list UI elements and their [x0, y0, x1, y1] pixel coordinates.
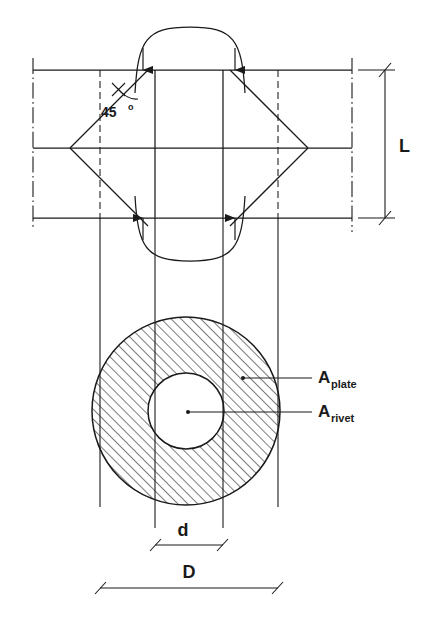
lower-plan-view — [88, 313, 284, 509]
dimension-L — [358, 63, 395, 225]
leader-dot-a-plate — [241, 376, 245, 380]
annulus-hatch-fill — [88, 313, 284, 509]
engineering-diagram-canvas: 45 o L A plate A rivet d D — [0, 0, 421, 628]
dimension-L-label: L — [399, 136, 410, 156]
area-rivet-label-base: A — [318, 402, 330, 421]
dimension-D-label: D — [183, 562, 196, 582]
area-plate-label-base: A — [318, 368, 330, 387]
rivet-head-top-arc — [135, 27, 245, 93]
dimension-d-label: d — [178, 520, 189, 540]
angle-tick-cross — [112, 83, 125, 96]
angle-label-value: 45 — [101, 104, 117, 120]
dimension-D — [95, 582, 283, 594]
area-plate-label-subscript: plate — [331, 378, 357, 390]
angle-label-degree-symbol: o — [128, 102, 134, 112]
upper-section-view — [33, 27, 352, 261]
diagram-svg: 45 o L A plate A rivet d D — [0, 0, 421, 628]
shear-line-upper-right — [230, 70, 308, 148]
dimension-d — [150, 539, 228, 551]
shear-line-lower-right — [230, 148, 308, 226]
leader-dot-a-rivet — [186, 410, 190, 414]
area-rivet-label-subscript: rivet — [331, 412, 355, 424]
rivet-head-bottom-arc — [135, 196, 245, 261]
